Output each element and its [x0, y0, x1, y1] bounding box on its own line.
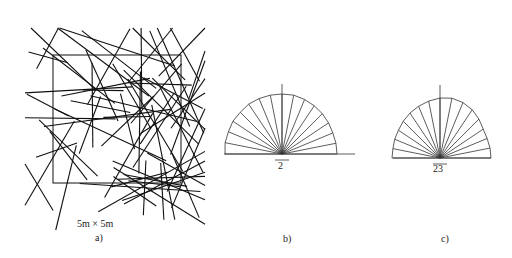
- panel-label-c: c): [441, 233, 449, 244]
- rose-diagram-c: [392, 85, 491, 164]
- panel-label-b: b): [283, 233, 291, 244]
- count-label-b: 2: [278, 160, 283, 171]
- rose-diagram-b: [224, 84, 355, 160]
- panel-label-a: a): [95, 232, 103, 243]
- count-label-c: 23: [433, 163, 443, 174]
- scale-label: 5m × 5m: [77, 218, 113, 229]
- fracture-network: [25, 28, 205, 230]
